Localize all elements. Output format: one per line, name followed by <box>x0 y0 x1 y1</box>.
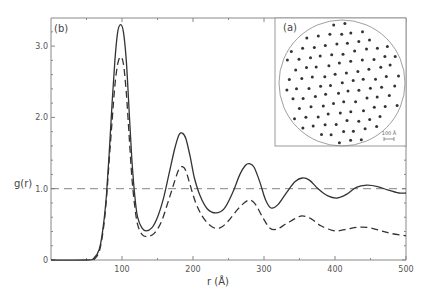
x-axis-title: r (Å) <box>207 275 229 287</box>
particle-dot <box>349 60 352 63</box>
particle-dot <box>361 30 364 33</box>
particle-dot <box>330 53 333 56</box>
particle-dot <box>301 126 304 129</box>
particle-dot <box>298 58 301 61</box>
particle-dot <box>349 139 352 142</box>
particle-dot <box>373 106 376 109</box>
particle-dot <box>362 78 365 81</box>
particle-dot <box>346 119 349 122</box>
particle-dot <box>300 77 303 80</box>
particle-dot <box>294 69 297 72</box>
particle-dot <box>334 73 337 76</box>
particle-dot <box>342 53 345 56</box>
particle-dot <box>346 42 349 45</box>
particle-dot <box>328 33 331 36</box>
particle-dot <box>357 89 360 92</box>
particle-dot <box>329 84 332 87</box>
particle-dot <box>338 141 341 144</box>
particle-dot <box>312 125 315 128</box>
particle-dot <box>342 100 345 103</box>
particle-dot <box>301 47 304 50</box>
panel-label-b: (b) <box>54 23 68 34</box>
particle-dot <box>317 116 320 119</box>
particle-dot <box>388 94 391 97</box>
particle-dot <box>314 95 317 98</box>
particle-dot <box>373 58 376 61</box>
particle-dot <box>379 66 382 69</box>
particle-dot <box>352 130 355 133</box>
particle-dot <box>340 33 343 36</box>
particle-dot <box>396 104 399 107</box>
particle-dot <box>365 48 368 51</box>
particle-dot <box>361 58 364 61</box>
particle-dot <box>345 71 348 74</box>
particle-dot <box>337 92 340 95</box>
particle-dot <box>319 85 322 88</box>
particle-dot <box>315 66 318 69</box>
particle-dot <box>356 70 359 73</box>
particle-dot <box>292 97 295 100</box>
panel-label-a: (a) <box>283 22 297 33</box>
particle-dot <box>338 61 341 64</box>
x-tick-label: 300 <box>256 265 271 274</box>
particle-dot <box>369 87 372 90</box>
particle-dot <box>293 117 296 120</box>
particle-dot <box>305 66 308 69</box>
particle-dot <box>393 85 396 88</box>
particle-dot <box>319 55 322 58</box>
particle-dot <box>376 47 379 50</box>
particle-dot <box>339 111 342 114</box>
particle-dot <box>343 22 346 25</box>
particle-dot <box>324 123 327 126</box>
particle-dot <box>295 87 298 90</box>
particle-dot <box>335 123 338 126</box>
particle-dot <box>309 56 312 59</box>
particle-dot <box>290 50 293 53</box>
particle-dot <box>352 79 355 82</box>
inset-panel: 100 Å <box>275 18 406 146</box>
rdf-chart: 10020030040050001.02.03.0 100 Å g(r) r (… <box>0 0 428 297</box>
particle-dot <box>362 109 365 112</box>
particle-dot <box>313 46 316 49</box>
particle-dot <box>322 105 325 108</box>
particle-dot <box>349 31 352 34</box>
particle-dot <box>320 133 323 136</box>
y-tick-label: 0 <box>43 256 48 265</box>
particle-dot <box>389 64 392 67</box>
particle-dot <box>332 23 335 26</box>
particle-dot <box>335 42 338 45</box>
particle-dot <box>310 105 313 108</box>
y-tick-label: 3.0 <box>35 42 48 51</box>
particle-dot <box>368 39 371 42</box>
particle-dot <box>324 44 327 47</box>
particle-dot <box>342 130 345 133</box>
particle-dot <box>367 68 370 71</box>
particle-dot <box>317 35 320 38</box>
y-axis-title: g(r) <box>14 178 32 189</box>
particle-dot <box>327 64 330 67</box>
particle-dot <box>360 138 363 141</box>
particle-dot <box>305 37 308 40</box>
particle-dot <box>366 97 369 100</box>
particle-dot <box>374 78 377 81</box>
x-tick-label: 100 <box>114 265 129 274</box>
y-tick-label: 1.0 <box>35 185 48 194</box>
particle-dot <box>354 100 357 103</box>
particle-dot <box>368 118 371 121</box>
particle-dot <box>383 55 386 58</box>
particle-dot <box>385 75 388 78</box>
particle-dot <box>353 50 356 53</box>
particle-dot <box>288 78 291 81</box>
particle-dot <box>304 116 307 119</box>
particle-dot <box>324 93 327 96</box>
particle-dot <box>327 113 330 116</box>
particle-dot <box>347 90 350 93</box>
particle-dot <box>364 127 367 130</box>
particle-dot <box>394 55 397 58</box>
particle-dot <box>341 81 344 84</box>
particle-dot <box>298 107 301 110</box>
particle-dot <box>397 75 400 78</box>
x-tick-label: 400 <box>327 265 342 274</box>
inset-frame <box>275 18 406 146</box>
particle-dot <box>357 40 360 43</box>
